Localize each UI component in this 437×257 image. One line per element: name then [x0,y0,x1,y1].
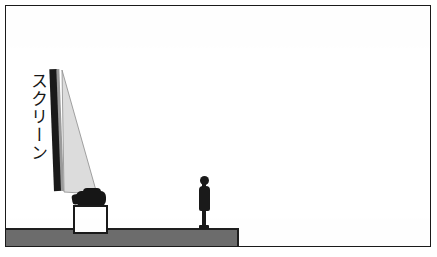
illustration-border: スクリーン [5,5,431,247]
scene-area: スクリーン [6,6,430,246]
projector-stand [73,205,108,234]
screen-caption-label: スクリーン [25,72,47,162]
person-torso [199,186,210,211]
person-feet [199,225,209,229]
raised-floor-platform [6,228,239,246]
standing-person-silhouette [196,176,212,230]
projector [76,191,106,206]
illustration-canvas: スクリーン [0,0,437,257]
